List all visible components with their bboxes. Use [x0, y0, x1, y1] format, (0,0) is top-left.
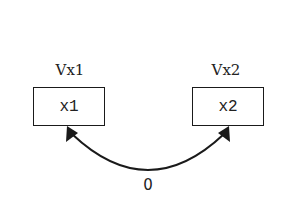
edge-label: 0 — [133, 176, 163, 194]
arrowhead-right-icon — [218, 126, 230, 142]
arrowhead-left-icon — [66, 126, 78, 142]
